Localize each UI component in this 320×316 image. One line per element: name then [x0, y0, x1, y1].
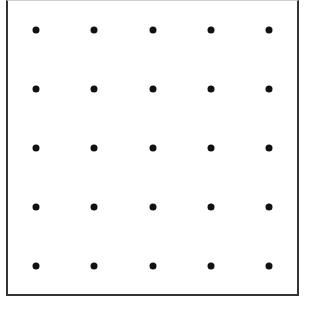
grid-dot — [266, 204, 273, 211]
grid-dot — [266, 263, 273, 270]
grid-dot — [208, 27, 215, 34]
grid-dot — [33, 263, 40, 270]
grid-dot — [91, 145, 98, 152]
grid-dot — [150, 86, 157, 93]
grid-dot — [33, 86, 40, 93]
grid-dot — [33, 204, 40, 211]
grid-dot — [91, 263, 98, 270]
grid-dot — [33, 145, 40, 152]
grid-dot — [266, 145, 273, 152]
grid-dot — [208, 204, 215, 211]
grid-dot — [208, 145, 215, 152]
grid-dot — [208, 86, 215, 93]
grid-dot — [91, 27, 98, 34]
grid-dot — [208, 263, 215, 270]
grid-dot — [150, 204, 157, 211]
grid-dot — [33, 27, 40, 34]
grid-dot — [91, 86, 98, 93]
grid-dot — [266, 86, 273, 93]
grid-dot — [150, 145, 157, 152]
grid-dot — [150, 27, 157, 34]
grid-dot — [91, 204, 98, 211]
grid-dot — [266, 27, 273, 34]
grid-dot — [150, 263, 157, 270]
